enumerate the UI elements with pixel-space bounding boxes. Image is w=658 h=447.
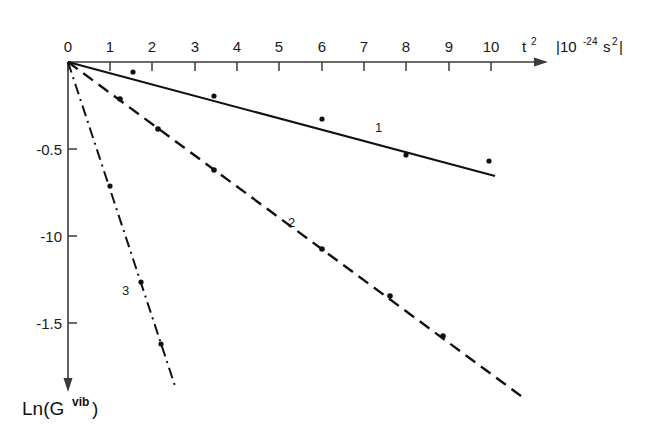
series-3-label: 3: [122, 283, 129, 298]
x-axis-unit-tail: s: [603, 38, 611, 55]
x-tick-label-2: 2: [148, 38, 156, 55]
series-3-line: [68, 62, 176, 389]
series-1-point-5: [486, 158, 491, 163]
x-axis-title-exponent: 2: [531, 36, 537, 47]
x-tick-label-10: 10: [483, 38, 500, 55]
y-axis-arrowhead: [64, 378, 73, 392]
series-1: 1: [68, 62, 495, 176]
x-tick-label-8: 8: [402, 38, 410, 55]
x-axis-arrowhead: [534, 58, 548, 67]
x-axis-title: t 2 |10 -24 s 2 |: [522, 36, 623, 55]
x-axis-unit-close: |: [619, 38, 623, 55]
x-axis-title-base: t: [522, 38, 527, 55]
series-2-point-6: [440, 333, 446, 339]
x-tick-label-9: 9: [445, 38, 453, 55]
y-tick-label-minus-1-5: -1.5: [36, 315, 62, 332]
y-tick-labels: -0.5 -10 -1.5: [36, 141, 62, 332]
series-3: 3: [68, 62, 176, 389]
series-1-point-2: [211, 93, 216, 98]
series-1-point-1: [130, 69, 135, 74]
x-tick-label-5: 5: [275, 38, 283, 55]
x-axis-ticks: [68, 62, 491, 71]
series-1-label: 1: [375, 120, 382, 135]
y-axis-title-base: Ln(G: [22, 398, 64, 419]
series-2-point-1: [117, 96, 123, 102]
y-axis-title-close: ): [92, 398, 98, 419]
series-1-point-3: [319, 116, 324, 121]
x-axis: 0 1 2 3 4 5 6 7 8 9 10 t 2 |10 -24 s 2 |: [64, 36, 623, 71]
y-tick-label-minus-1-0: -10: [40, 228, 62, 245]
y-axis-ticks: [68, 149, 77, 323]
x-tick-label-6: 6: [318, 38, 326, 55]
y-tick-label-minus-0-5: -0.5: [36, 141, 62, 158]
chart-figure: 0 1 2 3 4 5 6 7 8 9 10 t 2 |10 -24 s 2 |: [0, 0, 658, 447]
x-tick-label-0: 0: [64, 38, 72, 55]
series-3-point-3: [158, 341, 163, 346]
series-2-point-5: [387, 293, 393, 299]
chart-svg: 0 1 2 3 4 5 6 7 8 9 10 t 2 |10 -24 s 2 |: [0, 0, 658, 447]
series-2-point-2: [155, 126, 161, 132]
series-2-point-4: [319, 246, 325, 252]
series-1-point-4: [403, 152, 408, 157]
y-axis-title: Ln(G vib ): [22, 395, 98, 419]
x-tick-labels: 0 1 2 3 4 5 6 7 8 9 10: [64, 38, 500, 55]
x-tick-label-4: 4: [233, 38, 241, 55]
series-2-point-3: [211, 167, 217, 173]
series-2-label: 2: [288, 215, 295, 230]
x-tick-label-1: 1: [106, 38, 114, 55]
x-tick-label-7: 7: [360, 38, 368, 55]
series-3-point-2: [138, 279, 143, 284]
series-2: 2: [68, 62, 521, 396]
series-1-line: [68, 62, 495, 176]
y-axis-title-superscript: vib: [72, 395, 89, 409]
y-axis: -0.5 -10 -1.5 Ln(G vib ): [22, 62, 98, 419]
x-tick-label-3: 3: [191, 38, 199, 55]
x-axis-unit-exponent: -24: [583, 36, 598, 47]
series-3-point-1: [107, 183, 112, 188]
x-axis-unit-tail-exponent: 2: [612, 36, 618, 47]
x-axis-unit-open: |10: [556, 38, 577, 55]
